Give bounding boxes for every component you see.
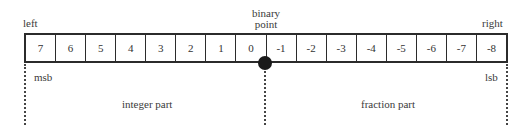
msb-label: msb bbox=[34, 72, 52, 83]
bit-cell: 1 bbox=[206, 35, 236, 61]
bit-cell: -1 bbox=[267, 35, 297, 61]
lsb-label: lsb bbox=[485, 72, 498, 83]
bit-cell: -5 bbox=[387, 35, 417, 61]
bit-cell: 2 bbox=[176, 35, 206, 61]
binary-point-marker-icon bbox=[258, 56, 272, 70]
lsb-dotted-divider bbox=[506, 64, 508, 125]
fraction-part-label: fraction part bbox=[361, 99, 415, 110]
integer-part-label: integer part bbox=[122, 99, 172, 110]
right-label: right bbox=[482, 18, 503, 29]
bit-cell: 6 bbox=[56, 35, 86, 61]
bit-cell: 3 bbox=[146, 35, 176, 61]
bit-cell: 7 bbox=[26, 35, 56, 61]
binary-point-label-line2: point bbox=[244, 19, 288, 30]
binary-point-label: binary point bbox=[244, 8, 288, 30]
bit-cell: -7 bbox=[447, 35, 477, 61]
bit-cell: -8 bbox=[477, 35, 506, 61]
bit-cell: -4 bbox=[357, 35, 387, 61]
bit-cell: -2 bbox=[297, 35, 327, 61]
binary-point-dotted-divider bbox=[264, 64, 266, 125]
bit-cell: 5 bbox=[86, 35, 116, 61]
bit-cell: 4 bbox=[116, 35, 146, 61]
bit-cell: -6 bbox=[417, 35, 447, 61]
bit-cell: -3 bbox=[327, 35, 357, 61]
left-label: left bbox=[23, 18, 38, 29]
msb-dotted-divider bbox=[24, 64, 26, 125]
